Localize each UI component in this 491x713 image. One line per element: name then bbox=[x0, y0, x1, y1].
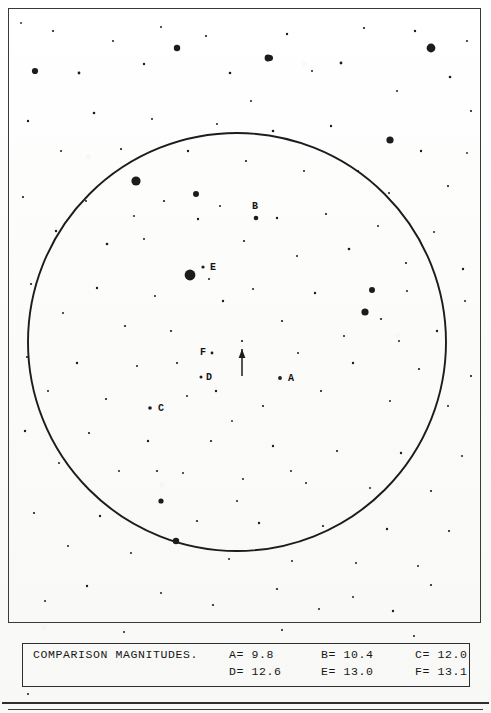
page-rule-bottom bbox=[8, 709, 483, 710]
comparison-magnitudes-legend: COMPARISON MAGNITUDES. A= 9.8 B= 10.4 C=… bbox=[22, 643, 470, 687]
field-star bbox=[466, 40, 468, 42]
field-star bbox=[106, 243, 109, 246]
field-star bbox=[414, 30, 416, 32]
field-star bbox=[392, 610, 394, 612]
field-star bbox=[197, 218, 199, 220]
field-star bbox=[352, 596, 354, 598]
field-star bbox=[276, 217, 278, 219]
field-star bbox=[470, 375, 472, 377]
field-star bbox=[187, 150, 189, 152]
star-label-b: B bbox=[252, 202, 258, 212]
field-star bbox=[290, 470, 292, 472]
star-label-e: E bbox=[210, 263, 216, 273]
field-star bbox=[236, 500, 238, 502]
field-star bbox=[186, 395, 188, 397]
star-label-f: F bbox=[200, 348, 206, 358]
field-star bbox=[243, 240, 245, 242]
field-star bbox=[47, 390, 49, 392]
field-star bbox=[85, 200, 87, 202]
magnitude-entry-b: B= 10.4 bbox=[321, 648, 374, 661]
chart-frame: ABCDEF bbox=[8, 8, 481, 623]
field-star bbox=[210, 440, 212, 442]
field-star bbox=[44, 600, 46, 602]
field-star bbox=[369, 487, 371, 489]
field-star bbox=[466, 152, 468, 154]
magnitude-value-a: 9.8 bbox=[252, 648, 275, 661]
field-star bbox=[272, 130, 275, 133]
field-star bbox=[20, 22, 22, 24]
field-star bbox=[52, 30, 54, 32]
field-star bbox=[400, 452, 402, 454]
magnitude-value-c: 12.0 bbox=[438, 648, 468, 661]
field-star bbox=[156, 470, 158, 472]
field-star bbox=[219, 205, 221, 207]
field-star bbox=[242, 478, 244, 480]
bright-star bbox=[174, 45, 180, 51]
legend-row-1: COMPARISON MAGNITUDES. A= 9.8 B= 10.4 C=… bbox=[33, 648, 469, 665]
field-star bbox=[133, 215, 135, 217]
field-star bbox=[151, 118, 153, 120]
field-star bbox=[447, 185, 449, 187]
field-star bbox=[245, 160, 247, 162]
finder-chart-page: ABCDEF COMPARISON MAGNITUDES. A= 9.8 B= … bbox=[0, 0, 491, 713]
field-star bbox=[252, 288, 254, 290]
field-star bbox=[67, 545, 69, 547]
field-star bbox=[340, 62, 343, 65]
field-star bbox=[262, 405, 264, 407]
field-star bbox=[86, 585, 88, 587]
magnitude-key-f: F= bbox=[415, 665, 430, 678]
field-star bbox=[322, 525, 324, 527]
field-star bbox=[320, 390, 322, 392]
target-variable-star bbox=[241, 340, 243, 342]
field-star bbox=[461, 455, 463, 457]
field-star bbox=[76, 362, 78, 364]
field-star bbox=[130, 552, 132, 554]
field-star bbox=[30, 283, 32, 285]
bright-star-group bbox=[32, 44, 436, 545]
field-star bbox=[222, 300, 224, 302]
field-star bbox=[343, 335, 345, 337]
arrow-head bbox=[239, 349, 246, 358]
magnitude-entry-c: C= 12.0 bbox=[415, 648, 468, 661]
field-star bbox=[430, 490, 432, 492]
field-star bbox=[276, 588, 278, 590]
field-star bbox=[433, 231, 435, 233]
field-star bbox=[93, 112, 96, 115]
field-star bbox=[286, 33, 288, 35]
field-star bbox=[380, 318, 382, 320]
field-star bbox=[348, 248, 351, 251]
field-star bbox=[336, 450, 338, 452]
field-star bbox=[62, 312, 64, 314]
field-star bbox=[118, 470, 120, 472]
magnitude-entry-f: F= 13.1 bbox=[415, 665, 468, 678]
field-star bbox=[160, 592, 162, 594]
field-star bbox=[124, 325, 126, 327]
field-star bbox=[96, 287, 98, 289]
field-star-group bbox=[20, 22, 472, 612]
bright-star bbox=[361, 308, 368, 315]
legend-title: COMPARISON MAGNITUDES. bbox=[33, 648, 198, 661]
field-star bbox=[216, 123, 218, 125]
field-star bbox=[363, 27, 365, 29]
field-star bbox=[176, 362, 178, 364]
field-star bbox=[398, 340, 400, 342]
field-star bbox=[136, 365, 138, 367]
field-star bbox=[163, 200, 165, 202]
field-star bbox=[305, 482, 307, 484]
comparison-star-b bbox=[254, 216, 259, 221]
paper-speck bbox=[413, 635, 415, 637]
field-star bbox=[388, 192, 390, 194]
field-star bbox=[417, 565, 419, 567]
variable-star-arrow bbox=[239, 340, 246, 376]
field-star bbox=[430, 584, 432, 586]
magnitude-entry-a: A= 9.8 bbox=[229, 648, 274, 661]
magnitude-entry-d: D= 12.6 bbox=[229, 665, 282, 678]
star-label-c: C bbox=[158, 404, 164, 414]
bright-star bbox=[386, 136, 393, 143]
bright-star bbox=[185, 270, 196, 281]
field-star bbox=[405, 262, 407, 264]
field-star bbox=[291, 560, 293, 562]
field-star bbox=[58, 462, 60, 464]
magnitude-key-a: A= bbox=[229, 648, 244, 661]
bright-star bbox=[158, 498, 163, 503]
